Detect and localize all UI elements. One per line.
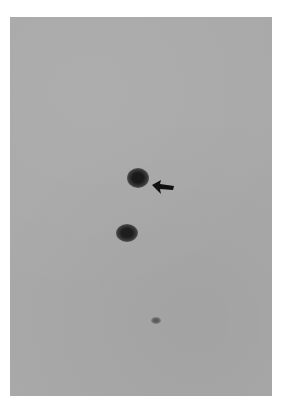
bleed-through-text bbox=[28, 2, 278, 12]
lower-spot bbox=[116, 224, 138, 242]
arrow-left-icon bbox=[152, 180, 174, 194]
gel-plate-panel bbox=[10, 17, 272, 396]
faint-spot bbox=[151, 317, 161, 324]
upper-spot bbox=[127, 168, 149, 188]
